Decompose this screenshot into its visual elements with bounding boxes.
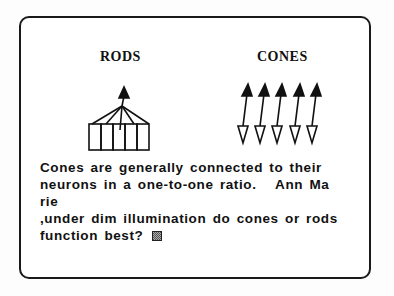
text-line: function best? (40, 228, 143, 243)
text-cursor-icon[interactable] (152, 231, 162, 241)
text-line: Cones are generally connected to their (40, 159, 360, 176)
cones-diagram (238, 84, 321, 143)
text-line-last: function best? (40, 227, 360, 244)
rods-diagram (89, 87, 149, 150)
rods-cones-diagram (0, 0, 394, 296)
text-line: ,under dim illumination do cones or rods (40, 210, 360, 227)
question-text: Cones are generally connected to their n… (40, 159, 360, 244)
text-line: neurons in a one-to-one ratio. Ann Ma (40, 176, 360, 193)
text-line: rie (40, 193, 360, 210)
